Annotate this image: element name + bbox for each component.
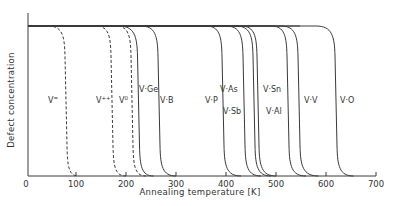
curve-label: V·Sb: [223, 107, 241, 116]
curve-label: V0: [119, 95, 128, 105]
x-tick-label: 600: [318, 179, 334, 189]
curve-labels: V=V++V0V·GeV·BV·PV·AsV·SbV·SnV·AlV·VV·O: [48, 85, 354, 116]
x-tick-label: 100: [68, 179, 84, 189]
curve-label: V·B: [160, 96, 174, 105]
curve-label: V·As: [220, 85, 238, 94]
curve-label: V·V: [304, 96, 318, 105]
curve-v-as: [28, 26, 261, 176]
curve-v0: [28, 26, 146, 176]
x-tick-label: 200: [118, 179, 134, 189]
curve-v-sn: [28, 26, 276, 176]
x-tick-label: 700: [368, 179, 384, 189]
x-tick-label: 0: [23, 179, 28, 189]
y-axis-title: Defect concentration: [6, 52, 16, 148]
curve-label: V·Al: [266, 107, 282, 116]
x-axis-title: Annealing temperature [K]: [139, 187, 260, 197]
curve-label: V·Sn: [263, 85, 281, 94]
curve-v-ge: [28, 26, 154, 176]
curve-label: V++: [96, 95, 111, 105]
chart-axes: [28, 13, 376, 176]
x-tick-label: 500: [268, 179, 284, 189]
curve-label: V·P: [205, 96, 218, 105]
annealing-chart: 0100200300400500600700 V=V++V0V·GeV·BV·P…: [0, 0, 401, 206]
curve-label: V·Ge: [139, 85, 158, 94]
curve-label: V·O: [340, 96, 354, 105]
curve-label: V=: [48, 95, 58, 105]
curve-v-: [28, 26, 126, 176]
